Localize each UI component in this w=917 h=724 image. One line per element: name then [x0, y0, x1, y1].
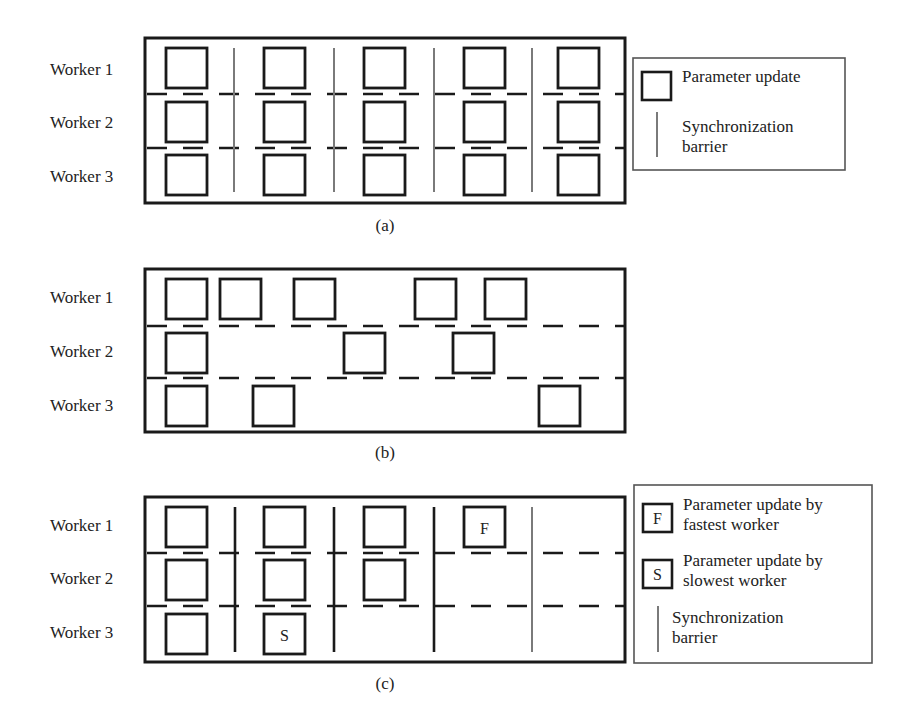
parameter-update-square: [264, 48, 305, 88]
parameter-update-square: [464, 155, 505, 195]
panel-b: [145, 269, 625, 432]
parameter-update-square: [220, 279, 261, 319]
panel-caption: (a): [376, 216, 395, 236]
parameter-update-square: [485, 279, 526, 319]
worker-label: Worker 3: [50, 167, 113, 187]
legend-square-letter: F: [653, 511, 662, 527]
legend-square-icon: [642, 72, 671, 100]
legend-label: fastest worker: [683, 516, 779, 534]
parameter-update-square: [558, 48, 599, 88]
legend-label: barrier: [682, 138, 727, 156]
worker-label: Worker 3: [50, 623, 113, 643]
parameter-update-square: [166, 614, 207, 654]
parameter-update-square: [344, 333, 385, 373]
worker-label: Worker 1: [50, 288, 113, 308]
worker-label: Worker 2: [50, 569, 113, 589]
parameter-update-square: [166, 102, 207, 142]
legend-label: Synchronization: [672, 609, 783, 627]
legend-square-letter: S: [653, 567, 662, 583]
legend-label: Synchronization: [682, 118, 793, 136]
parameter-update-square: [166, 386, 207, 426]
square-letter: F: [480, 521, 489, 537]
parameter-update-square: [364, 155, 405, 195]
panel-a: [145, 38, 625, 203]
parameter-update-square: [264, 560, 305, 600]
parameter-update-square: [166, 507, 207, 547]
legend-label: Parameter update: [682, 68, 800, 86]
panel-c: [145, 497, 625, 662]
parameter-update-square: [364, 48, 405, 88]
parameter-update-square: [364, 507, 405, 547]
worker-label: Worker 1: [50, 516, 113, 536]
parameter-update-square: [253, 386, 294, 426]
parameter-update-square: [558, 102, 599, 142]
parameter-update-square: [294, 279, 335, 319]
parameter-update-square: [558, 155, 599, 195]
parameter-update-square: [264, 102, 305, 142]
parameter-update-square: [464, 102, 505, 142]
parameter-update-square: [464, 48, 505, 88]
parameter-update-square: [166, 279, 207, 319]
legend-label: slowest worker: [683, 572, 786, 590]
panel-caption: (c): [376, 674, 395, 694]
legend-label: Parameter update by: [683, 496, 823, 514]
worker-label: Worker 3: [50, 396, 113, 416]
square-letter: S: [280, 628, 289, 644]
panel-caption: (b): [375, 443, 395, 463]
parameter-update-square: [415, 279, 456, 319]
worker-label: Worker 2: [50, 342, 113, 362]
parameter-update-square: [166, 155, 207, 195]
parameter-update-square: [166, 560, 207, 600]
parameter-update-square: [453, 333, 494, 373]
parameter-update-square: [166, 48, 207, 88]
parameter-update-square: [166, 333, 207, 373]
parameter-update-square: [264, 507, 305, 547]
worker-label: Worker 1: [50, 60, 113, 80]
worker-label: Worker 2: [50, 113, 113, 133]
parameter-update-square: [364, 102, 405, 142]
parameter-update-square: [264, 155, 305, 195]
legend-label: barrier: [672, 629, 717, 647]
parameter-update-square: [364, 560, 405, 600]
parameter-update-square: [539, 386, 580, 426]
legend-label: Parameter update by: [683, 552, 823, 570]
